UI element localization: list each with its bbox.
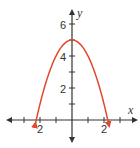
x-tick-label-neg2: 2 [37,123,43,135]
y-tick-label-6: 6 [60,19,66,31]
x-tick-label-pos2: 2 [101,123,107,135]
y-tick-label-2: 2 [60,83,66,95]
y-tick-label-4: 4 [60,51,66,63]
x-axis-label: x [127,103,134,117]
chart-canvas: y x 6 4 2 2 2 [0,0,140,148]
parabola-graph: y x 6 4 2 2 2 [0,0,140,148]
y-axis-label: y [76,6,83,20]
y-axis [69,12,75,140]
